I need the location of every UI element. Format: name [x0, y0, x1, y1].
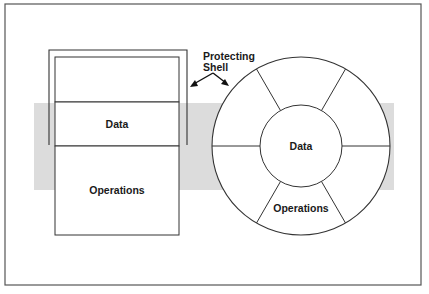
left-top-segment	[55, 57, 179, 102]
right-data-label: Data	[290, 140, 313, 152]
encapsulation-diagram: Data Operations Protecting Shell Data Op…	[0, 0, 429, 294]
left-operations-label: Operations	[89, 184, 145, 196]
left-data-label: Data	[106, 118, 129, 130]
annotation-line2: Shell	[203, 61, 228, 73]
right-operations-label: Operations	[273, 202, 329, 214]
left-object-box	[55, 57, 179, 235]
